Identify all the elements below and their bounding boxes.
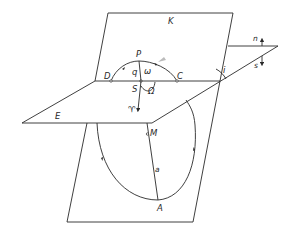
plane-lower: [67, 81, 220, 222]
orbital-elements-diagram: K P D C q ω S Ω ♈ i n s E M a A: [0, 0, 293, 236]
label-omega: ω: [144, 66, 151, 76]
label-s-south: s: [254, 61, 258, 70]
plane-e: [22, 46, 278, 123]
label-k: K: [168, 16, 175, 26]
arc-arrow-left: [122, 67, 125, 70]
label-q: q: [132, 67, 138, 77]
arc-arrow-right: [154, 63, 157, 66]
label-vernal-equinox: ♈: [128, 104, 136, 114]
orbit-arrow-left: [101, 157, 103, 161]
label-s: S: [132, 84, 138, 94]
label-m: M: [150, 128, 158, 138]
motion-shading: [158, 57, 166, 62]
label-p: P: [136, 49, 142, 59]
label-a-point: A: [156, 203, 163, 213]
plane-k: [95, 13, 233, 81]
point-m: [146, 133, 148, 135]
label-e: E: [55, 111, 61, 121]
line-ps: [139, 61, 141, 81]
vernal-equinox-direction: [138, 81, 141, 110]
label-big-omega: Ω: [147, 86, 155, 96]
label-i: i: [223, 65, 226, 75]
label-n: n: [253, 34, 258, 43]
label-d: D: [104, 71, 111, 81]
label-a: a: [155, 165, 160, 174]
label-c: C: [177, 71, 183, 81]
orbit-path: [97, 100, 195, 200]
